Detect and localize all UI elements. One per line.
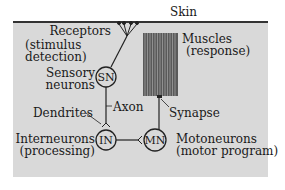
interneuron-node: IN bbox=[96, 130, 116, 150]
motoneuron-node: MN bbox=[144, 129, 166, 151]
dendrites-pointer bbox=[86, 113, 101, 124]
receptor-fiber bbox=[111, 36, 127, 67]
svg-text:SN: SN bbox=[97, 71, 115, 84]
muscle-block bbox=[143, 33, 178, 96]
neural-circuit-diagram: SN IN MN bbox=[0, 0, 285, 190]
neuromuscular-junction bbox=[157, 95, 162, 98]
svg-text:IN: IN bbox=[99, 134, 113, 147]
synapse-pointer bbox=[161, 99, 169, 107]
sensory-neuron-node: SN bbox=[96, 67, 116, 87]
sensory-synapse-ending bbox=[102, 123, 110, 127]
svg-text:MN: MN bbox=[145, 134, 166, 147]
receptor-endings bbox=[118, 22, 139, 37]
motoneuron-synapse-ending bbox=[138, 136, 142, 144]
